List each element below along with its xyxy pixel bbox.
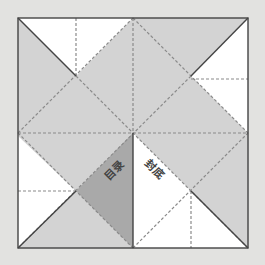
fold-diagram: 目录 封底: [0, 0, 265, 265]
